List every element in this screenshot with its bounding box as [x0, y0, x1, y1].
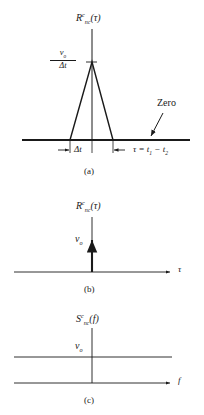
figure-graphics	[0, 0, 204, 415]
panel-b-graphics	[14, 217, 170, 272]
panel-c-x-axis-label: f	[178, 376, 181, 385]
panel-a-y-axis-label: Rcnc(τ)	[76, 12, 101, 26]
panel-a-caption: (a)	[84, 166, 94, 176]
panel-b-y-axis-label: Rcnc(τ)	[76, 200, 101, 214]
panel-a-zero-annotation: Zero	[157, 98, 176, 108]
panel-b-impulse-label: νo	[75, 234, 83, 246]
panel-c-y-axis-label: Scnc(f)	[76, 313, 99, 327]
figure-container: Rcnc(τ) νo Δt Zero Δt τ = t1 − t2 (a) Rc…	[0, 0, 204, 415]
panel-c-level-label: νo	[75, 341, 83, 353]
panel-b-x-axis-label: τ	[178, 265, 181, 274]
panel-a-zero-leader-arrow	[151, 113, 163, 136]
panel-c-graphics	[14, 328, 172, 383]
panel-c-caption: (c)	[84, 395, 94, 405]
panel-a-peak-value-label: νo Δt	[50, 48, 76, 70]
panel-a-graphics	[22, 29, 190, 153]
panel-a-width-label: Δt	[74, 145, 82, 154]
panel-b-caption: (b)	[84, 284, 95, 294]
panel-a-x-axis-label: τ = t1 − t2	[133, 145, 168, 156]
